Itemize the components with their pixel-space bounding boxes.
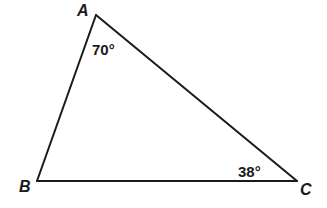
triangle-diagram [0,0,327,208]
angle-label-c: 38° [238,164,261,179]
angle-label-a: 70° [92,42,115,57]
vertex-label-b: B [19,179,31,195]
edge-ab [37,15,96,181]
vertex-label-c: C [300,182,312,198]
vertex-label-a: A [77,3,89,19]
edge-ca [96,15,297,181]
